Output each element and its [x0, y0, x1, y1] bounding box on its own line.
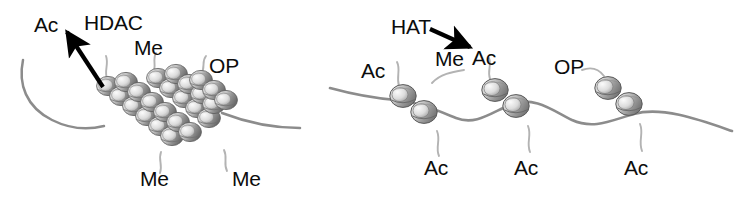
label-ac-bottom-1: Ac	[424, 157, 448, 178]
label-me-right: Me	[435, 48, 464, 69]
label-ac-bottom-3: Ac	[624, 157, 648, 178]
label-op-right: OP	[554, 56, 584, 77]
hdac-deacetylation-arrow	[67, 32, 103, 87]
label-op-top: OP	[209, 55, 239, 76]
label-ac-left: Ac	[361, 60, 385, 81]
dna-strand-left-exit	[222, 113, 300, 128]
label-hdac: HDAC	[84, 12, 143, 33]
hat-acetylation-arrow	[430, 29, 470, 47]
right-panel-artwork	[330, 29, 732, 156]
label-hat: HAT	[391, 16, 431, 37]
label-me-bottom-1: Me	[140, 168, 169, 189]
label-ac-released: Ac	[34, 14, 58, 35]
label-ac-added: Ac	[472, 47, 496, 68]
label-me-bottom-2: Me	[232, 168, 261, 189]
nucleosome-group-3	[595, 77, 642, 116]
nucleosome-group-2	[482, 79, 529, 118]
label-ac-bottom-2: Ac	[514, 157, 538, 178]
label-me-top: Me	[134, 37, 163, 58]
chromatin-remodeling-figure: Ac HDAC Me OP Me Me HAT Ac Me Ac OP Ac A…	[0, 0, 744, 199]
